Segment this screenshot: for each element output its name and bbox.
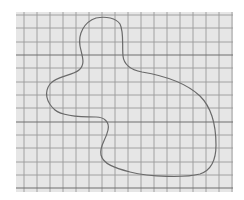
graph-paper-svg xyxy=(0,0,244,200)
graph-paper-figure xyxy=(0,0,244,200)
